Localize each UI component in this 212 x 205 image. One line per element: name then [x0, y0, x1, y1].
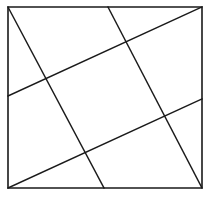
geometry-figure-container: [0, 0, 212, 205]
geometry-figure-canvas: [0, 0, 212, 205]
figure-background: [0, 0, 212, 205]
